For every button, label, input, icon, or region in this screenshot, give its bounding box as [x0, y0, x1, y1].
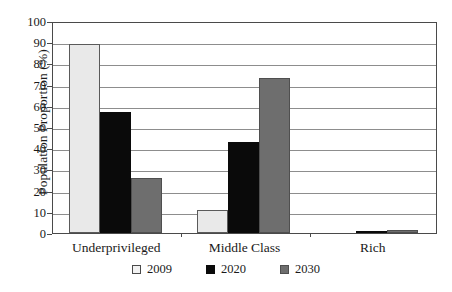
bar-2020-underprivileged	[100, 112, 131, 233]
y-axis-tick-label: 50	[0, 121, 46, 136]
legend-swatch-icon	[132, 265, 141, 274]
plot-area	[52, 22, 437, 234]
legend-item-2009[interactable]: 2009	[132, 262, 172, 277]
y-axis-tick-label: 60	[0, 99, 46, 114]
y-axis-tick-label: 70	[0, 78, 46, 93]
legend-swatch-icon	[206, 265, 215, 274]
bar-chart-figure: Population Proportion (%) 01020304050607…	[0, 0, 452, 292]
x-axis-tick-mark	[181, 233, 182, 237]
y-axis-tick-label: 10	[0, 205, 46, 220]
gridline	[53, 108, 436, 109]
gridline	[53, 65, 436, 66]
legend-item-2030[interactable]: 2030	[280, 262, 320, 277]
y-axis-tick-label: 20	[0, 184, 46, 199]
legend-swatch-icon	[280, 265, 289, 274]
bar-2020-rich	[356, 231, 387, 233]
x-axis-tick-mark	[310, 233, 311, 237]
y-axis-tick-label: 90	[0, 36, 46, 51]
x-axis-category-label: Middle Class	[209, 240, 281, 256]
bar-2020-middle-class	[228, 142, 259, 233]
y-axis-tick-mark	[47, 234, 52, 235]
bar-2030-middle-class	[259, 78, 290, 233]
y-axis-tick-label: 40	[0, 142, 46, 157]
bar-2030-rich	[387, 230, 418, 233]
y-axis-tick-label: 100	[0, 15, 46, 30]
gridline	[53, 87, 436, 88]
bar-2030-underprivileged	[131, 178, 162, 233]
legend-label: 2009	[147, 262, 172, 277]
legend-item-2020[interactable]: 2020	[206, 262, 246, 277]
x-axis-category-label: Rich	[360, 240, 386, 256]
gridline	[53, 44, 436, 45]
legend-label: 2020	[221, 262, 246, 277]
bar-2009-underprivileged	[69, 44, 100, 233]
legend-label: 2030	[295, 262, 320, 277]
y-axis-tick-label: 80	[0, 57, 46, 72]
bar-2009-middle-class	[197, 210, 228, 233]
y-axis-tick-label: 0	[0, 227, 46, 242]
chart-legend: 200920202030	[0, 262, 452, 277]
x-axis-category-label: Underprivileged	[72, 240, 160, 256]
y-axis-tick-label: 30	[0, 163, 46, 178]
